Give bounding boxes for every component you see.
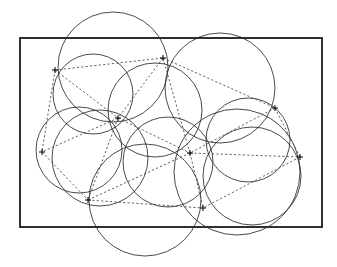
figure-root xyxy=(0,0,337,267)
geometry-diagram xyxy=(0,0,337,267)
